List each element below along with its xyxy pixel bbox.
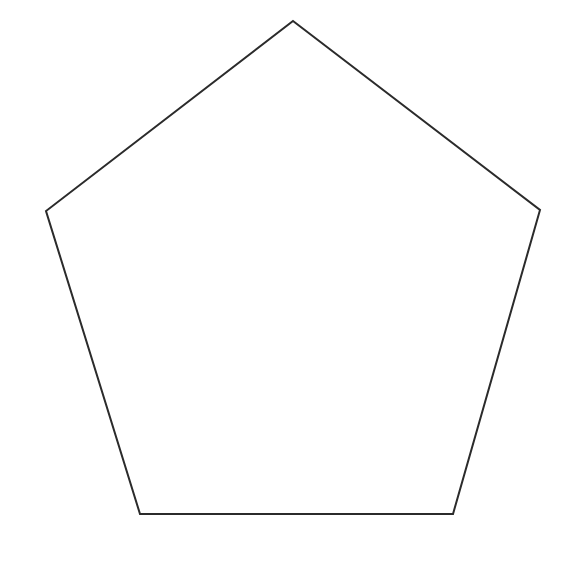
canvas-background (0, 0, 570, 574)
pentagon-svg (0, 0, 570, 574)
drawing-canvas (0, 0, 570, 574)
